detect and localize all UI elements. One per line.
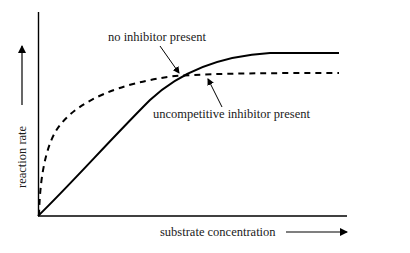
curve-uncompetitive-inhibitor <box>39 73 339 216</box>
y-axis-label: reaction rate <box>15 125 29 188</box>
annotation-uncompetitive-label: uncompetitive inhibitor present <box>153 107 310 121</box>
annotation-no-inhibitor-label: no inhibitor present <box>108 30 206 44</box>
x-axis-label: substrate concentration <box>160 225 276 239</box>
curve-no-inhibitor <box>38 53 339 216</box>
annotation-no-inhibitor-arrow <box>160 46 179 73</box>
annotation-uncompetitive-arrow <box>208 79 222 107</box>
reaction-rate-chart: no inhibitor present uncompetitive inhib… <box>0 0 410 253</box>
